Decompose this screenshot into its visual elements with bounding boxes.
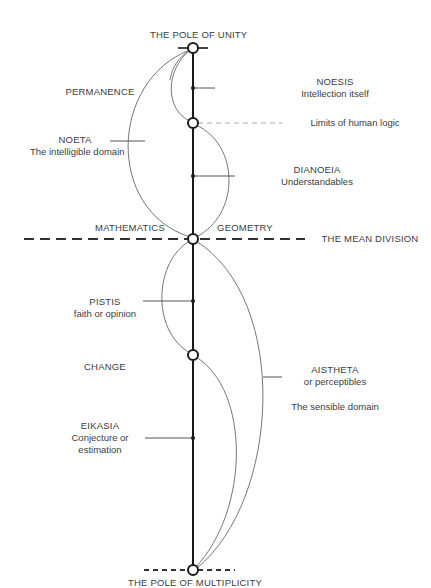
permanence-label: PERMANENCE [60,86,140,98]
node-limits [188,118,198,128]
dianoeia-arc [196,125,229,237]
noeta-label: NOETA The intelligible domain [30,134,120,158]
pistis-arc [162,241,190,353]
noesis-arc [171,50,190,121]
aistheta-label: AISTHETA or perceptibles [285,364,385,388]
node-multiplicity [188,565,198,575]
pole-of-multiplicity-label: THE POLE OF MULTIPLICITY [128,577,258,588]
node-change [188,350,198,360]
node-mean [188,234,198,244]
pistis-label: PISTIS faith or opinion [60,296,150,320]
mathematics-label: MATHEMATICS [85,222,175,234]
node-unity [188,43,198,53]
noesis-label: NOESIS Intellection itself [275,76,395,100]
change-label: CHANGE [70,361,140,373]
eikasia-label: EIKASIA Conjecture or estimation [60,420,140,456]
limits-label: Limits of human logic [295,117,415,129]
aistheta-note: The sensible domain [275,401,395,413]
pole-of-unity-label: THE POLE OF UNITY [150,29,240,41]
eikasia-arc [195,357,236,568]
geometry-label: GEOMETRY [210,222,280,234]
dianoeia-label: DIANOEIA Understandables [262,164,372,188]
noeta-arc [128,50,190,237]
mean-division-label: THE MEAN DIVISION [315,233,425,245]
